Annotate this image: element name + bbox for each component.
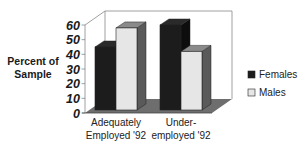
y-tick-label: 30 [66, 63, 80, 77]
y-tick-label: 0 [73, 107, 80, 121]
y-tick-label: 50 [66, 33, 80, 47]
y-tick-label: 20 [65, 77, 80, 91]
bars [95, 19, 211, 110]
legend: FemalesMales [248, 69, 297, 98]
bar-males-1 [181, 45, 211, 110]
legend-label-males: Males [259, 87, 286, 98]
legend-swatch-females [248, 71, 255, 78]
bar-chart: 0102030405060 Percent ofSample Adequatel… [0, 0, 300, 149]
legend-swatch-males [248, 89, 255, 96]
y-axis-ticks: 0102030405060 [65, 19, 85, 121]
legend-label-females: Females [259, 69, 297, 80]
x-axis-categories: AdequatelyEmployed '92Under-employed '92 [86, 117, 211, 141]
y-axis-label: Percent ofSample [7, 55, 59, 80]
y-tick-label: 10 [66, 92, 80, 106]
y-tick-label: 60 [66, 19, 80, 33]
x-category-label: Employed '92 [86, 130, 147, 141]
bar-males-0 [116, 22, 146, 110]
x-category-label: employed '92 [151, 130, 211, 141]
x-category-label: Under- [166, 117, 197, 128]
x-category-label: Adequately [91, 117, 141, 128]
y-tick-label: 40 [65, 48, 80, 62]
